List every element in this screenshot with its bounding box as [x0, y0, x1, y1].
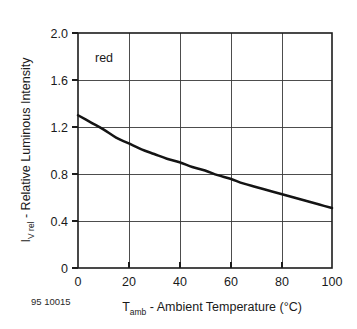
y-tick-label: 1.6: [51, 74, 68, 88]
y-tick-label: 0.8: [51, 168, 68, 182]
y-axis-label-subscript: V rel: [26, 221, 36, 239]
figure-number: 95 10015: [31, 296, 71, 307]
x-tick-label: 60: [224, 275, 238, 289]
x-tick-label: 40: [173, 275, 187, 289]
x-tick-label: 0: [75, 275, 82, 289]
x-tick-label: 100: [322, 275, 343, 289]
chart-figure: 2.0 1.6 1.2 0.8 0.4 0 0 20 40 60 80 100 …: [0, 0, 357, 329]
x-axis-ticks: [129, 262, 282, 268]
y-tick-label: 0: [61, 262, 68, 276]
x-tick-label: 80: [275, 275, 289, 289]
vertical-gridlines: [129, 33, 282, 268]
data-series-line-red: [78, 115, 332, 208]
horizontal-gridlines: [78, 80, 332, 221]
y-tick-labels: 2.0 1.6 1.2 0.8 0.4 0: [51, 27, 68, 276]
x-tick-label: 20: [122, 275, 136, 289]
y-tick-label: 2.0: [51, 27, 68, 41]
y-axis-ticks: [72, 33, 78, 268]
x-axis-label: Tamb - Ambient Temperature (°C): [122, 300, 302, 317]
y-tick-label: 0.4: [51, 215, 68, 229]
chart-svg: 2.0 1.6 1.2 0.8 0.4 0 0 20 40 60 80 100 …: [0, 0, 357, 329]
y-axis-label: IV rel - Relative Luminous Intensity: [19, 57, 36, 243]
plot-frame: [78, 33, 332, 268]
y-axis-label-text: - Relative Luminous Intensity: [19, 57, 33, 222]
x-axis-label-subscript: amb: [130, 307, 147, 317]
x-axis-label-text: - Ambient Temperature (°C): [146, 300, 302, 314]
y-tick-label: 1.2: [51, 121, 68, 135]
x-tick-labels: 0 20 40 60 80 100: [75, 275, 343, 289]
series-annotation-red: red: [95, 51, 113, 65]
